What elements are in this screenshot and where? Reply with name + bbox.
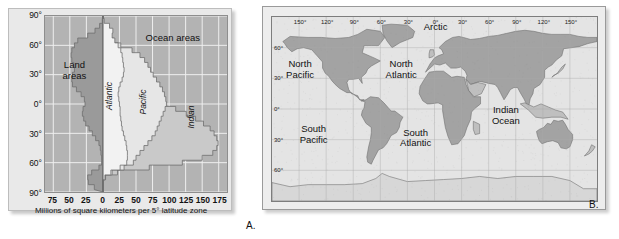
chart-x-tick-label: 25 [115,195,124,205]
chart-x-tick-label: 50 [64,195,73,205]
chart-annotation: Land areas [63,60,87,81]
chart-y-tick-label: 0° [16,100,42,108]
chart-plot-area [44,15,228,193]
chart-y-tick-label: 60° [16,41,42,49]
chart-x-tick-label: 75 [148,195,157,205]
chart-x-tick-label: 25 [81,195,90,205]
map-longitude-tick-label: 30° [458,19,467,25]
map-board: 150°120°90°60°30°0°30°60°90°120°150°60°3… [262,6,606,210]
chart-y-tick-label: 30° [16,70,42,78]
chart-y-axis: 90°60°30°0°30°60°90° [9,9,42,199]
map-longitude-tick-label: 60° [377,19,386,25]
figure-root: 90°60°30°0°30°60°90° 7550250255075100125… [0,0,619,239]
panel-a-chart: 90°60°30°0°30°60°90° 7550250255075100125… [8,8,240,219]
map-longitude-tick-label: 120° [538,19,550,25]
chart-y-tick-label: 60° [16,159,42,167]
chart-x-tick-label: 75 [48,195,57,205]
map-latitude-tick-label: 60° [274,45,283,51]
chart-x-tick-label: 50 [131,195,140,205]
map-longitude-tick-label: 150° [565,19,577,25]
map-ocean-label: South Pacific [300,124,328,145]
chart-x-tick-label: 0 [100,195,105,205]
chart-annotation: Ocean areas [146,33,200,43]
chart-y-tick-label: 90° [16,189,42,197]
map-longitude-tick-label: 120° [321,19,333,25]
map-longitude-tick-label: 30° [404,19,413,25]
panel-a-caption-label: A. [246,220,255,231]
chart-x-tick-label: 150 [196,195,210,205]
map-svg [272,17,597,201]
panel-b-caption-label: B. [589,199,598,210]
map-longitude-tick-label: 90° [350,19,359,25]
map-plot-area: 150°120°90°60°30°0°30°60°90°120°150°60°3… [271,16,598,202]
map-longitude-tick-label: 150° [294,19,306,25]
panel-b-map: 150°120°90°60°30°0°30°60°90°120°150°60°3… [262,6,612,216]
chart-x-tick-label: 125 [179,195,193,205]
chart-board: 90°60°30°0°30°60°90° 7550250255075100125… [8,8,232,211]
chart-annotation: Atlantic [105,82,114,110]
chart-y-tick-label: 90° [16,11,42,19]
chart-x-tick-label: 100 [162,195,176,205]
map-latitude-tick-label: 0° [274,106,280,112]
map-latitude-tick-label: 30° [274,75,283,81]
chart-y-tick-label: 30° [16,130,42,138]
chart-annotation: Pacific [139,89,148,114]
map-ocean-label: South Atlantic [400,128,431,149]
map-ocean-label: North Atlantic [386,59,417,80]
chart-x-axis-title: Millions of square kilometers per 5° lat… [9,206,233,215]
map-latitude-tick-label: 60° [274,167,283,173]
map-latitude-tick-label: 30° [274,137,283,143]
chart-annotation: Indian [188,105,197,128]
map-ocean-label: North Pacific [286,59,314,80]
map-longitude-tick-label: 60° [485,19,494,25]
map-ocean-label: Arctic [424,22,448,33]
map-ocean-label: Indian Ocean [492,105,520,126]
map-longitude-tick-label: 90° [512,19,521,25]
chart-x-tick-label: 175 [213,195,227,205]
